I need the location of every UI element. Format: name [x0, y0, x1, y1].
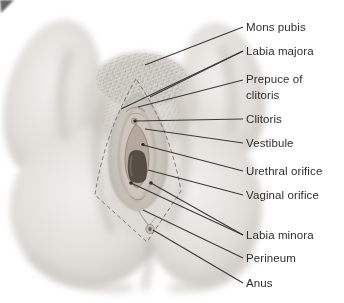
- label-perineum: Perineum: [246, 251, 296, 267]
- label-vestibule: Vestibule: [246, 136, 294, 152]
- dot-labia-minora-left: [129, 181, 133, 185]
- dot-urethral: [141, 143, 144, 146]
- figure: Mons pubis Labia majora Prepuce of clito…: [0, 0, 344, 303]
- label-labia-majora: Labia majora: [246, 44, 314, 60]
- anus-opening: [148, 227, 151, 231]
- label-vaginal-orifice: Vaginal orifice: [246, 188, 319, 204]
- label-clitoris: Clitoris: [246, 112, 282, 128]
- dot-labia-minora-right: [149, 181, 153, 185]
- label-mons-pubis: Mons pubis: [246, 20, 306, 36]
- label-prepuce: Prepuce of clitoris: [246, 72, 328, 103]
- label-labia-minora: Labia minora: [246, 228, 314, 244]
- corner-smudge: [0, 0, 14, 13]
- label-urethral-orifice: Urethral orifice: [246, 164, 322, 180]
- label-anus: Anus: [246, 276, 273, 292]
- dot-clitoris: [133, 119, 136, 122]
